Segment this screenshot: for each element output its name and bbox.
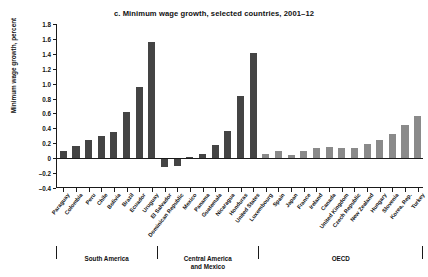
x-axis-labels: ParaguayColombiaPeruChileBoliviaBrazilEc… bbox=[56, 192, 423, 248]
bar-rect bbox=[376, 140, 383, 158]
bar bbox=[72, 24, 79, 188]
bar-rect bbox=[351, 148, 358, 158]
bar-rect bbox=[224, 131, 231, 159]
bar bbox=[212, 24, 219, 188]
y-tick-mark bbox=[53, 128, 56, 129]
bar-rect bbox=[60, 151, 67, 158]
y-tick-label: 0.4 bbox=[10, 125, 56, 132]
bar-rect bbox=[338, 148, 345, 158]
y-tick-label: 0.6 bbox=[10, 110, 56, 117]
bar bbox=[389, 24, 396, 188]
y-tick-label: 1.6 bbox=[10, 35, 56, 42]
y-tick-mark bbox=[53, 24, 56, 25]
bar-rect bbox=[389, 134, 396, 158]
bar-rect bbox=[136, 87, 143, 158]
bar bbox=[136, 24, 143, 188]
bar bbox=[148, 24, 155, 188]
bar bbox=[401, 24, 408, 188]
y-tick-label: –0.4 bbox=[10, 185, 56, 192]
bar-rect bbox=[161, 158, 168, 167]
bar bbox=[161, 24, 168, 188]
bar-rect bbox=[148, 42, 155, 158]
bar-rect bbox=[401, 125, 408, 159]
y-tick-label: –0.2 bbox=[10, 170, 56, 177]
bar bbox=[414, 24, 421, 188]
bar bbox=[351, 24, 358, 188]
bar bbox=[98, 24, 105, 188]
bar-rect bbox=[250, 53, 257, 158]
y-tick-label: 0.2 bbox=[10, 140, 56, 147]
bar-rect bbox=[174, 158, 181, 166]
y-tick-mark bbox=[53, 173, 56, 174]
bar bbox=[123, 24, 130, 188]
bar bbox=[186, 24, 193, 188]
bar-rect bbox=[72, 146, 79, 158]
group-axis: South AmericaCentral Americaand MexicoOE… bbox=[56, 246, 423, 274]
y-tick-mark bbox=[53, 113, 56, 114]
bar-rect bbox=[414, 116, 421, 158]
bar bbox=[85, 24, 92, 188]
bar bbox=[300, 24, 307, 188]
bar-rect bbox=[326, 147, 333, 158]
y-tick-label: 1.4 bbox=[10, 50, 56, 57]
bar-rect bbox=[123, 112, 130, 158]
y-tick-mark bbox=[53, 143, 56, 144]
y-tick-mark bbox=[53, 54, 56, 55]
bar bbox=[110, 24, 117, 188]
y-tick-mark bbox=[53, 99, 56, 100]
chart-title: c. Minimum wage growth, selected countri… bbox=[0, 9, 428, 18]
bar bbox=[288, 24, 295, 188]
y-tick-mark bbox=[53, 188, 56, 189]
y-tick-label: 1.8 bbox=[10, 21, 56, 28]
zero-line bbox=[56, 158, 423, 159]
bar bbox=[237, 24, 244, 188]
bar-rect bbox=[364, 144, 371, 158]
bar bbox=[338, 24, 345, 188]
y-tick-label: 1.2 bbox=[10, 65, 56, 72]
bar-rect bbox=[300, 151, 307, 158]
y-tick-mark bbox=[53, 39, 56, 40]
bar bbox=[224, 24, 231, 188]
bar-rect bbox=[237, 96, 244, 158]
y-tick-mark bbox=[53, 69, 56, 70]
bar bbox=[326, 24, 333, 188]
bar-rect bbox=[98, 136, 105, 158]
y-tick-label: 0.8 bbox=[10, 95, 56, 102]
y-tick-label: 0 bbox=[10, 155, 56, 162]
bar bbox=[262, 24, 269, 188]
bar bbox=[174, 24, 181, 188]
bar-rect bbox=[110, 132, 117, 158]
group-label: Central Americaand Mexico bbox=[157, 255, 258, 271]
bar-rect bbox=[313, 148, 320, 158]
bar-rect bbox=[85, 140, 92, 159]
bar bbox=[60, 24, 67, 188]
chart-container: c. Minimum wage growth, selected countri… bbox=[0, 0, 428, 277]
y-tick-mark bbox=[53, 84, 56, 85]
bar bbox=[313, 24, 320, 188]
bar bbox=[250, 24, 257, 188]
group-label: South America bbox=[56, 255, 157, 263]
bar-rect bbox=[275, 151, 282, 158]
group-label: OECD bbox=[258, 255, 423, 263]
y-tick-label: 1.0 bbox=[10, 80, 56, 87]
